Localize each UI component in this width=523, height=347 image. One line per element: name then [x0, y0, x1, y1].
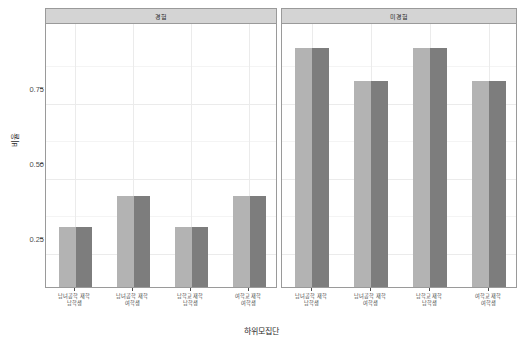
x-tick-mark — [190, 288, 191, 291]
bar-group — [175, 227, 208, 288]
bar-segment-dark — [192, 227, 209, 288]
bar-segment-dark — [76, 227, 93, 288]
bar-segment-light — [233, 196, 250, 287]
x-tick-mark — [488, 288, 489, 291]
panel-body-right — [282, 24, 516, 287]
x-tick-mark — [370, 288, 371, 291]
y-tick-label-050: 0.50 — [10, 160, 44, 169]
bar-segment-dark — [430, 48, 447, 287]
y-tick-label-025: 0.25 — [10, 235, 44, 244]
bar-segment-light — [59, 227, 76, 288]
y-tick-mark-075 — [40, 88, 43, 89]
x-tick-mark — [248, 288, 249, 291]
x-tick-line1: 여학교 재학 — [453, 293, 523, 300]
x-axis-title: 하위모집단 — [0, 325, 523, 336]
y-axis-ticks: 0.75 0.50 0.25 — [0, 0, 44, 347]
bar-group — [233, 196, 266, 287]
bar-segment-light — [175, 227, 192, 288]
y-tick-label-075: 0.75 — [10, 85, 44, 94]
x-tick-mark — [74, 288, 75, 291]
y-tick-mark-050 — [40, 163, 43, 164]
grid-major-075 — [46, 104, 276, 105]
x-tick-line2: 여학생 — [213, 300, 283, 307]
bar-group — [295, 48, 329, 287]
bar-segment-dark — [371, 81, 388, 287]
x-tick-mark — [311, 288, 312, 291]
x-tick-label-left-4: 여학교 재학 여학생 — [213, 293, 283, 307]
bar-segment-dark — [250, 196, 267, 287]
bar-segment-dark — [312, 48, 329, 287]
x-tick-label-right-4: 여학교 재학 여학생 — [453, 293, 523, 307]
x-tick-mark — [132, 288, 133, 291]
bar-group — [472, 81, 506, 287]
bar-segment-dark — [489, 81, 506, 287]
panel-strip-label-left: 경험 — [46, 9, 276, 24]
x-tick-mark — [429, 288, 430, 291]
bar-segment-light — [354, 81, 371, 287]
bar-group — [354, 81, 388, 287]
panel-strip-label-right: 미경험 — [282, 9, 516, 24]
x-tick-line1: 여학교 재학 — [213, 293, 283, 300]
bar-segment-light — [295, 48, 312, 287]
panel-body-left — [46, 24, 276, 287]
grid-minor — [46, 66, 276, 67]
chart-canvas: 비율 0.75 0.50 0.25 경험 — [0, 0, 523, 347]
bar-group — [59, 227, 92, 288]
bar-segment-light — [117, 196, 134, 287]
panel-experienced: 경험 — [45, 8, 277, 288]
bar-group — [117, 196, 150, 287]
bar-segment-light — [413, 48, 430, 287]
grid-major-050 — [46, 179, 276, 180]
bar-segment-light — [472, 81, 489, 287]
y-tick-mark-025 — [40, 238, 43, 239]
x-tick-line2: 여학생 — [453, 300, 523, 307]
bar-segment-dark — [134, 196, 151, 287]
bar-group — [413, 48, 447, 287]
grid-minor — [46, 141, 276, 142]
panel-inexperienced: 미경험 — [281, 8, 517, 288]
